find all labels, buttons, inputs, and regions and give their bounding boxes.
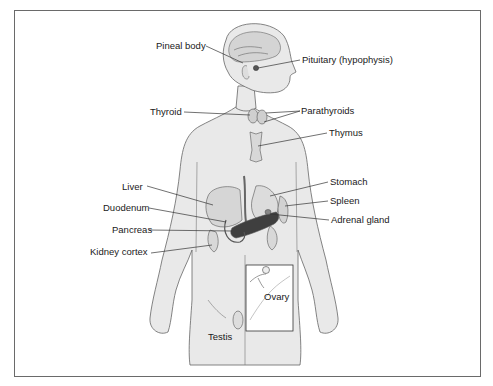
label-pineal-body: Pineal body xyxy=(156,41,206,51)
label-kidney-cortex: Kidney cortex xyxy=(90,247,148,257)
label-duodenum: Duodenum xyxy=(103,203,149,213)
human-body-illustration xyxy=(0,0,493,386)
label-stomach: Stomach xyxy=(330,177,368,187)
ovary-icon xyxy=(263,267,270,274)
label-testis: Testis xyxy=(208,332,232,342)
thymus-gland xyxy=(250,132,262,162)
label-thymus: Thymus xyxy=(329,128,363,138)
label-liver: Liver xyxy=(122,182,143,192)
label-thyroid: Thyroid xyxy=(150,107,182,117)
label-ovary: Ovary xyxy=(264,292,289,302)
label-pituitary: Pituitary (hypophysis) xyxy=(302,55,393,65)
label-adrenal-gland: Adrenal gland xyxy=(331,215,390,225)
label-pancreas: Pancreas xyxy=(112,225,152,235)
pituitary-gland xyxy=(253,65,258,70)
testis xyxy=(233,311,243,329)
liver xyxy=(206,187,242,227)
label-parathyroids: Parathyroids xyxy=(301,106,354,116)
label-spleen: Spleen xyxy=(330,196,360,206)
brain xyxy=(229,32,281,62)
